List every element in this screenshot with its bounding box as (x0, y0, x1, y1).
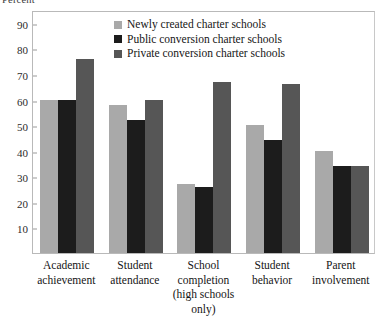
x-axis-category-label: Studentattendance (101, 258, 170, 287)
legend-swatch-icon (114, 50, 122, 58)
y-tick-label: 50 (17, 122, 33, 133)
x-axis-category-label: Academicachievement (32, 258, 101, 287)
x-axis-label-line: (high schools (169, 287, 238, 302)
bar (351, 166, 369, 253)
x-axis-label-line: Parent (306, 258, 375, 273)
x-axis-label-line: only) (169, 302, 238, 317)
x-axis-category-label: Parentinvolvement (306, 258, 375, 287)
x-axis-labels: AcademicachievementStudentattendanceScho… (32, 258, 375, 328)
bar (58, 100, 76, 253)
x-axis-label-line: involvement (306, 273, 375, 288)
bar (177, 184, 195, 253)
bar (282, 84, 300, 253)
legend-item: Private conversion charter schools (114, 47, 285, 61)
bar (213, 82, 231, 253)
y-tick-label: 70 (17, 70, 33, 81)
bar (109, 105, 127, 253)
bar (315, 151, 333, 253)
chart-legend: Newly created charter schoolsPublic conv… (114, 18, 285, 61)
bar (333, 166, 351, 253)
x-axis-label-line: Student (101, 258, 170, 273)
x-axis-label-line: completion (169, 273, 238, 288)
x-axis-label-line: Academic (32, 258, 101, 273)
legend-swatch-icon (114, 35, 122, 43)
legend-label: Private conversion charter schools (127, 47, 285, 61)
x-axis-category-label: Schoolcompletion(high schoolsonly) (169, 258, 238, 317)
legend-label: Public conversion charter schools (127, 33, 282, 47)
bar-chart-figure: Percent 102030405060708090 Newly created… (0, 0, 384, 331)
legend-item: Newly created charter schools (114, 18, 285, 32)
bar (76, 59, 94, 253)
x-axis-category-label: Studentbehavior (238, 258, 307, 287)
bar (195, 187, 213, 254)
legend-item: Public conversion charter schools (114, 33, 285, 47)
bar (246, 125, 264, 253)
x-axis-label-line: attendance (101, 273, 170, 288)
bar (264, 140, 282, 253)
y-axis-title: Percent (2, 0, 35, 5)
bar (40, 100, 58, 253)
y-tick-label: 60 (17, 96, 33, 107)
legend-label: Newly created charter schools (127, 18, 266, 32)
x-axis-label-line: behavior (238, 273, 307, 288)
x-axis-label-line: Student (238, 258, 307, 273)
bar-group (33, 12, 102, 253)
x-axis-label-line: School (169, 258, 238, 273)
bar (127, 120, 145, 253)
y-tick-label: 40 (17, 147, 33, 158)
y-tick-label: 80 (17, 45, 33, 56)
bar-group (307, 12, 376, 253)
y-tick-label: 90 (17, 19, 33, 30)
legend-swatch-icon (114, 21, 122, 29)
y-tick-label: 30 (17, 173, 33, 184)
y-tick-label: 10 (17, 224, 33, 235)
x-axis-label-line: achievement (32, 273, 101, 288)
bar (145, 100, 163, 253)
y-tick-label: 20 (17, 198, 33, 209)
